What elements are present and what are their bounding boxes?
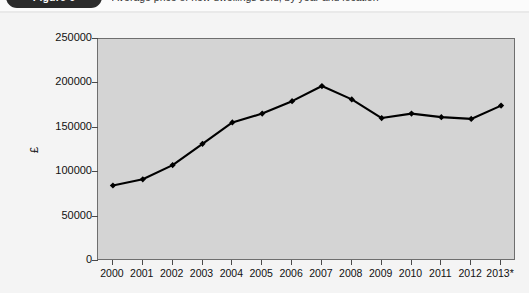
plot-area: [97, 38, 515, 260]
x-axis-tick-mark: [500, 260, 501, 265]
y-axis-tick-mark: [92, 127, 98, 128]
x-axis-tick-mark: [261, 260, 262, 265]
series-markers: [110, 83, 504, 189]
x-axis-tick-label: 2005: [250, 267, 273, 279]
x-axis-tick-mark: [470, 260, 471, 265]
y-axis-tick-mark: [92, 38, 98, 39]
series-average-price: [98, 39, 516, 261]
data-point-marker: [259, 110, 265, 116]
y-axis-tick-label: 250000: [34, 31, 92, 43]
x-axis-tick-label: 2009: [369, 267, 392, 279]
x-axis-tick-label: 2012: [459, 267, 482, 279]
x-axis-tick-label: 2011: [429, 267, 452, 279]
data-point-marker: [498, 103, 504, 109]
data-point-marker: [468, 116, 474, 122]
data-point-marker: [408, 110, 414, 116]
x-axis-tick-label: 2000: [100, 267, 123, 279]
figure-caption-band: Figure 6 Average price of new dwellings …: [0, 0, 529, 11]
y-axis-tick-label: 50000: [34, 209, 92, 221]
y-axis-tick-mark: [92, 82, 98, 83]
x-axis-tick-mark: [321, 260, 322, 265]
y-axis-tick-labels: 050000100000150000200000250000: [32, 13, 92, 273]
x-axis-tick-mark: [411, 260, 412, 265]
x-axis: 2000200120022003200420052006200720082009…: [97, 260, 515, 290]
x-axis-tick-label: 2004: [220, 267, 243, 279]
figure-number-badge: Figure 6: [6, 0, 102, 8]
y-axis-tick-mark: [92, 260, 98, 261]
x-axis-tick-label: 2010: [399, 267, 422, 279]
x-axis-tick-label: 2003: [190, 267, 213, 279]
x-axis-tick-mark: [291, 260, 292, 265]
x-axis-tick-mark: [351, 260, 352, 265]
x-axis-tick-label: 2008: [339, 267, 362, 279]
y-axis-tick-label: 100000: [34, 164, 92, 176]
y-axis-tick-mark: [92, 171, 98, 172]
x-axis-tick-mark: [142, 260, 143, 265]
data-point-marker: [110, 182, 116, 188]
x-axis-tick-label: 2002: [160, 267, 183, 279]
x-axis-tick-label: 2001: [130, 267, 153, 279]
figure-caption-text: Average price of new dwellings sold, by …: [112, 0, 527, 7]
y-axis-tick-label: 0: [34, 253, 92, 265]
x-axis-tick-label: 2006: [279, 267, 302, 279]
y-axis-tick-label: 150000: [34, 120, 92, 132]
series-line: [113, 86, 501, 185]
x-axis-tick-mark: [381, 260, 382, 265]
x-axis-tick-mark: [172, 260, 173, 265]
x-axis-tick-label: 2013*: [486, 267, 513, 279]
y-axis-tick-mark: [92, 216, 98, 217]
x-axis-tick-mark: [112, 260, 113, 265]
line-chart: £ 050000100000150000200000250000 2000200…: [0, 13, 529, 293]
x-axis-tick-mark: [231, 260, 232, 265]
x-axis-tick-mark: [202, 260, 203, 265]
x-axis-tick-mark: [440, 260, 441, 265]
figure-container: Figure 6 Average price of new dwellings …: [0, 0, 529, 293]
data-point-marker: [438, 114, 444, 120]
x-axis-tick-label: 2007: [309, 267, 332, 279]
y-axis-tick-label: 200000: [34, 75, 92, 87]
